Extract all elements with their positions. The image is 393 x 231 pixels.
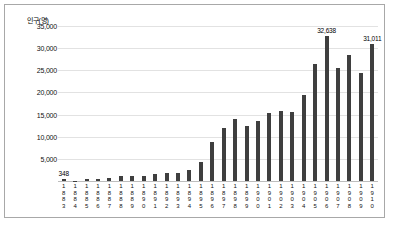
bar[interactable] [302,95,306,181]
x-axis-tick-label: 1898 [233,183,236,209]
x-axis-tick: 1895 [195,183,206,219]
x-axis-tick: 1896 [207,183,218,219]
bar[interactable] [165,173,169,181]
bar[interactable] [119,176,123,181]
bar-value-label: 31,011 [363,35,381,42]
bar[interactable] [130,176,134,181]
bar[interactable] [245,126,249,181]
x-axis-tick: 1887 [104,183,115,219]
x-axis-tick: 1904 [298,183,309,219]
x-axis-tick-label: 1883 [62,183,65,209]
bar[interactable] [73,181,77,182]
bar[interactable] [313,64,317,181]
x-axis-tick-label: 1907 [336,183,339,209]
x-axis-tick-label: 1896 [211,183,214,209]
x-axis-tick-label: 1894 [188,183,191,209]
x-axis-tick-label: 1909 [359,183,362,209]
x-axis-tick-label: 1902 [279,183,282,209]
x-axis-tick: 1890 [138,183,149,219]
x-axis-tick-label: 1892 [165,183,168,209]
bar[interactable] [176,173,180,181]
x-axis-tick-label: 1910 [371,183,374,209]
bar[interactable] [336,68,340,181]
bar[interactable] [279,111,283,181]
chart-plot-area: 인구(명) 35,00030,00025,00020,00015,00010,0… [5,5,384,217]
x-axis-tick: 1906 [321,183,332,219]
y-axis-tick-label: 25,000 [23,67,57,74]
bar[interactable] [210,142,214,181]
x-axis-tick-label: 1903 [291,183,294,209]
x-axis-tick-label: 1891 [153,183,156,209]
bar[interactable] [222,128,226,181]
x-axis-tick-label: 1900 [256,183,259,209]
x-axis-tick-label: 1890 [142,183,145,209]
bar[interactable] [187,170,191,181]
bar[interactable] [107,178,111,181]
bar[interactable] [62,179,66,181]
y-axis-tick-labels: 35,00030,00025,00020,00015,00010,0005,00… [5,5,57,217]
x-axis-tick-label: 1895 [199,183,202,209]
y-axis-tick-label: 35,000 [23,23,57,30]
x-axis-tick-label: 1906 [325,183,328,209]
x-axis-tick: 1885 [81,183,92,219]
x-axis-tick-label: 1893 [176,183,179,209]
bar[interactable] [347,55,351,181]
x-axis-tick-label: 1897 [222,183,225,209]
x-axis-tick: 1898 [229,183,240,219]
x-axis-tick-label: 1884 [73,183,76,209]
x-axis-tick: 1900 [252,183,263,219]
bar[interactable] [359,73,363,182]
x-axis-tick: 1889 [127,183,138,219]
x-axis-tick-label: 1887 [108,183,111,209]
bar[interactable] [153,174,157,181]
bar[interactable] [96,179,100,181]
bar[interactable] [256,121,260,181]
bar[interactable] [233,119,237,181]
x-axis-tick-labels: 1883188418851886188718881889189018911892… [58,183,378,219]
x-axis-tick: 1886 [92,183,103,219]
x-axis-tick: 1888 [115,183,126,219]
bar[interactable] [370,44,374,181]
x-axis-tick-label: 1899 [245,183,248,209]
x-axis-tick: 1901 [264,183,275,219]
x-axis-tick: 1903 [287,183,298,219]
x-axis-tick: 1899 [241,183,252,219]
bar[interactable] [199,162,203,181]
x-axis-tick: 1905 [309,183,320,219]
bar[interactable] [325,36,329,181]
bar-value-label: 348 [59,170,69,177]
x-axis-tick-label: 1904 [302,183,305,209]
bar[interactable] [267,113,271,181]
x-axis-tick: 1894 [184,183,195,219]
x-axis-tick: 1910 [367,183,378,219]
x-axis-tick: 1883 [58,183,69,219]
x-axis-tick: 1897 [218,183,229,219]
x-axis-tick-label: 1901 [268,183,271,209]
x-axis-tick: 1907 [332,183,343,219]
x-axis-tick: 1909 [355,183,366,219]
x-axis-tick-label: 1888 [119,183,122,209]
x-axis-tick: 1892 [161,183,172,219]
y-axis-tick-label: 5,000 [23,155,57,162]
x-axis-tick: 1891 [149,183,160,219]
x-axis-tick-label: 1886 [96,183,99,209]
chart-frame: 인구(명) 35,00030,00025,00020,00015,00010,0… [4,4,385,218]
x-axis-tick-label: 1885 [85,183,88,209]
x-axis-tick: 1908 [344,183,355,219]
x-axis-tick-label: 1889 [131,183,134,209]
x-axis-tick: 1893 [172,183,183,219]
bar[interactable] [290,112,294,181]
x-axis-tick: 1902 [275,183,286,219]
x-axis-tick-label: 1905 [313,183,316,209]
bar[interactable] [85,179,89,181]
bar[interactable] [142,176,146,181]
y-axis-tick-label: 15,000 [23,111,57,118]
y-axis-tick-label: 30,000 [23,45,57,52]
y-axis-tick-label: 20,000 [23,89,57,96]
x-axis-tick-label: 1908 [348,183,351,209]
y-axis-tick-label: 10,000 [23,133,57,140]
x-axis-tick: 1884 [69,183,80,219]
